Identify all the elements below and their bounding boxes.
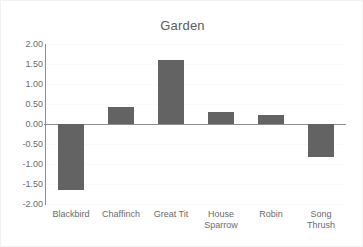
bar-chart: Garden 2.001.501.000.500.00-0.50-1.00-1.…	[0, 0, 363, 247]
bar	[108, 107, 134, 124]
y-axis-tick-label: 1.00	[5, 80, 43, 89]
bar	[208, 112, 234, 124]
bar-group: Robin	[258, 44, 284, 204]
bar	[58, 124, 84, 190]
x-axis-category-label: Song Thrush	[296, 209, 346, 231]
y-axis-tick-label: 2.00	[5, 40, 43, 49]
y-axis-tick-label: -1.50	[5, 180, 43, 189]
bar-group: Great Tit	[158, 44, 184, 204]
x-axis-category-label: HouseSparrow	[196, 209, 246, 231]
x-axis-category-label: Chaffinch	[96, 209, 146, 220]
y-axis-tick-label: -2.00	[5, 200, 43, 209]
gridline	[46, 104, 346, 105]
x-axis-category-label: Great Tit	[146, 209, 196, 220]
chart-title: Garden	[1, 18, 363, 33]
bar-group: Blackbird	[58, 44, 84, 204]
plot-area: BlackbirdChaffinchGreat TitHouseSparrowR…	[46, 44, 346, 204]
bar	[308, 124, 334, 157]
gridline	[46, 144, 346, 145]
gridline	[46, 204, 346, 205]
zero-baseline	[44, 124, 346, 125]
bar-group: Chaffinch	[108, 44, 134, 204]
x-axis-category-label: Robin	[246, 209, 296, 220]
gridline	[46, 84, 346, 85]
bar-group: Song Thrush	[308, 44, 334, 204]
gridline	[46, 44, 346, 45]
bar	[158, 60, 184, 124]
y-axis-tick-label: 1.50	[5, 60, 43, 69]
x-axis-category-label: Blackbird	[46, 209, 96, 220]
y-axis-tick-label: 0.50	[5, 100, 43, 109]
y-axis-tick-label: 0.00	[5, 120, 43, 129]
gridline	[46, 184, 346, 185]
gridline	[46, 64, 346, 65]
gridline	[46, 164, 346, 165]
y-axis-tick-labels: 2.001.501.000.500.00-0.50-1.00-1.50-2.00	[1, 44, 43, 204]
y-axis-tick-label: -0.50	[5, 140, 43, 149]
bar	[258, 115, 284, 124]
bar-group: HouseSparrow	[208, 44, 234, 204]
y-axis-tick-label: -1.00	[5, 160, 43, 169]
